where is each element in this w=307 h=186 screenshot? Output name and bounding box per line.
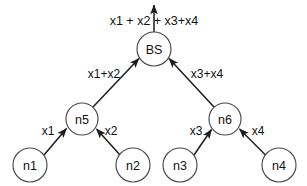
edge-label-x3: x3 (190, 124, 203, 138)
node-label-n2: n2 (126, 159, 140, 173)
node-label-n4: n4 (272, 159, 286, 173)
node-label-n6: n6 (218, 113, 232, 127)
edge-label-x1-plus-x2: x1+x2 (88, 67, 121, 81)
output-sum-label: x1 + x2 + x3+x4 (110, 14, 199, 28)
node-label-bs: BS (146, 43, 163, 57)
aggregation-tree-diagram: BS n5 n6 n1 n2 n3 n4 x1 x2 x3 x4 x1+x2 x… (0, 0, 307, 186)
edge-label-x4: x4 (252, 124, 265, 138)
node-label-n5: n5 (75, 113, 89, 127)
edge-n6-to-bs (169, 59, 214, 108)
node-label-n1: n1 (23, 159, 37, 173)
edge-label-x2: x2 (105, 124, 118, 138)
edge-label-x3-plus-x4: x3+x4 (191, 67, 224, 81)
edge-label-x1: x1 (42, 124, 55, 138)
diagram-canvas: BS n5 n6 n1 n2 n3 n4 x1 x2 x3 x4 x1+x2 x… (0, 0, 307, 186)
edge-n5-to-bs (93, 59, 139, 108)
node-label-n3: n3 (173, 159, 187, 173)
